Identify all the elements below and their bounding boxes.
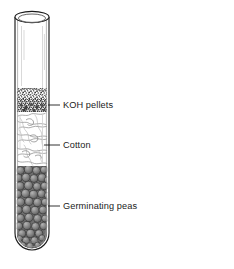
callout-germinating-peas: Germinating peas: [48, 201, 137, 211]
layer-koh-pellets: [17, 88, 47, 112]
callout-koh-pellets: KOH pellets: [48, 100, 113, 110]
test-tube-diagram: KOH pellets Cotton Germinating peas: [0, 0, 234, 269]
diagram-canvas: KOH pellets Cotton Germinating peas: [0, 0, 234, 269]
test-tube-body: [14, 11, 51, 251]
label-germinating-peas: Germinating peas: [63, 201, 137, 211]
label-koh-pellets: KOH pellets: [63, 100, 113, 110]
callout-cotton: Cotton: [44, 140, 91, 150]
label-cotton: Cotton: [63, 140, 91, 150]
tube-rim-opening: [18, 14, 45, 22]
